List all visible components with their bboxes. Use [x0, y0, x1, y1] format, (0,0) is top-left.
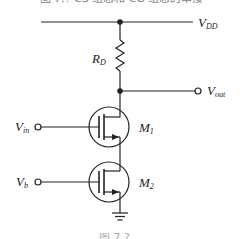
nmos-m2-icon	[41, 162, 129, 213]
vin-label: Vin	[15, 120, 29, 135]
m1-label: M1	[139, 121, 154, 136]
vout-terminal-icon	[195, 88, 201, 94]
vout-label: Vout	[207, 84, 225, 99]
m2-label: M2	[139, 176, 154, 191]
nmos-m1-icon	[41, 107, 129, 168]
ground-icon	[112, 213, 128, 220]
vin-terminal-icon	[35, 124, 41, 130]
vb-label: Vb	[16, 175, 28, 190]
cascode-schematic	[0, 0, 243, 239]
vb-terminal-icon	[35, 179, 41, 185]
vdd-label: VDD	[198, 16, 218, 31]
figure-caption-bottom: 图 7.? ...	[0, 233, 243, 239]
rd-label: RD	[92, 52, 106, 67]
resistor-rd-icon	[116, 40, 124, 71]
